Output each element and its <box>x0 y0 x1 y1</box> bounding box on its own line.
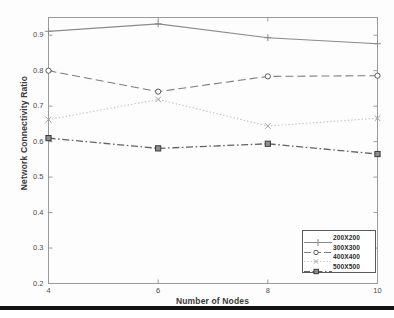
y-tick-label: 0.8 <box>16 66 44 75</box>
legend-item-1: 300X300 <box>303 243 375 253</box>
y-tick-label: 0.6 <box>16 137 44 146</box>
legend-label-300x300: 300X300 <box>333 244 360 251</box>
legend-swatch-300x300 <box>303 243 333 252</box>
data-marker <box>375 73 380 78</box>
data-marker <box>46 135 51 140</box>
series-200x200 <box>45 20 381 47</box>
legend-swatch-200x200 <box>303 233 333 242</box>
y-tick-label: 0.5 <box>16 172 44 181</box>
data-marker <box>156 89 161 94</box>
x-axis-title: Number of Nodes <box>48 296 377 306</box>
chart-legend: 200X200 300X300 400X400 <box>302 230 376 273</box>
data-marker <box>265 74 270 79</box>
y-tick-label: 0.3 <box>16 243 44 252</box>
legend-label-500x500: 500X500 <box>333 263 360 270</box>
legend-label-200x200: 200X200 <box>333 234 360 241</box>
series-line <box>49 99 378 126</box>
data-marker <box>375 151 380 156</box>
legend-swatch-500x500 <box>303 262 333 271</box>
legend-label-400x400: 400X400 <box>333 253 360 260</box>
series-400x400 <box>46 97 381 129</box>
legend-item-0: 200X200 <box>303 233 375 243</box>
series-300x300 <box>46 68 380 94</box>
chart-figure: Network Connectivity Ratio Number of Nod… <box>0 0 394 318</box>
x-tick-label: 6 <box>146 286 170 295</box>
x-tick-label: 8 <box>256 286 280 295</box>
series-line <box>49 138 378 154</box>
data-marker <box>265 141 270 146</box>
x-tick-label: 4 <box>37 286 61 295</box>
y-tick-label: 0.7 <box>16 101 44 110</box>
legend-item-3: 500X500 <box>303 262 375 272</box>
y-tick-label: 0.9 <box>16 30 44 39</box>
series-line <box>49 71 378 92</box>
y-axis-title: Network Connectivity Ratio <box>19 33 29 233</box>
data-marker <box>156 146 161 151</box>
legend-item-2: 400X400 <box>303 252 375 262</box>
page-edge-whitespace <box>0 310 394 318</box>
x-tick-label: 10 <box>366 286 390 295</box>
series-500x500 <box>46 135 380 156</box>
y-tick-label: 0.4 <box>16 208 44 217</box>
legend-swatch-400x400 <box>303 252 333 261</box>
data-marker <box>46 68 51 73</box>
series-line <box>49 24 378 44</box>
